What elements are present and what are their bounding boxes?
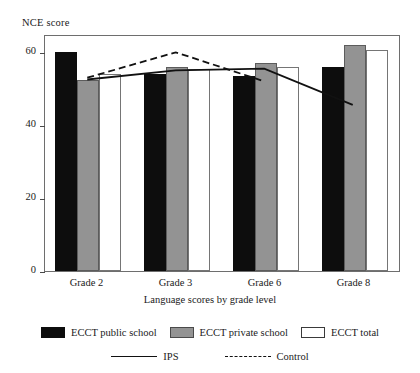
legend-item: ECCT total — [301, 327, 379, 338]
legend-label: IPS — [163, 351, 178, 362]
y-axis-label: NCE score — [22, 17, 70, 28]
bar — [255, 63, 277, 271]
legend-item: ECCT private school — [170, 327, 288, 338]
x-label-grade-3: Grade 3 — [159, 277, 193, 288]
x-axis-title: Language scores by grade level — [0, 294, 420, 305]
legend-swatch-black — [41, 327, 65, 338]
legend-item: Control — [225, 351, 309, 362]
legend-item: ECCT public school — [41, 327, 157, 338]
bar — [188, 69, 210, 271]
bar — [144, 74, 166, 271]
legend-label: ECCT total — [331, 327, 379, 338]
bar — [277, 67, 299, 271]
plot-area: 0204060 — [44, 35, 400, 272]
y-tick-mark — [40, 272, 45, 273]
bar — [322, 67, 344, 271]
bar — [233, 76, 255, 271]
bar — [366, 50, 388, 271]
x-label-grade-8: Grade 8 — [337, 277, 371, 288]
bars-layer — [45, 36, 399, 271]
x-label-grade-2: Grade 2 — [70, 277, 104, 288]
legend-item: IPS — [111, 351, 178, 362]
bar — [166, 67, 188, 271]
legend-swatch-gray — [170, 327, 194, 338]
bar — [344, 45, 366, 271]
bar — [99, 74, 121, 271]
bar — [55, 52, 77, 271]
y-tick-label: 0 — [31, 265, 36, 276]
y-tick-label: 20 — [26, 192, 37, 203]
legend-line-swatch-solid — [111, 356, 157, 357]
legend-label: Control — [277, 351, 309, 362]
legend-label: ECCT public school — [71, 327, 157, 338]
y-tick-label: 40 — [26, 119, 37, 130]
legend-line-series: IPSControl — [0, 351, 420, 362]
x-label-grade-6: Grade 6 — [248, 277, 282, 288]
nce-score-bar-chart: NCE score 0204060 Grade 2Grade 3Grade 6G… — [0, 0, 420, 373]
y-tick-label: 60 — [26, 46, 37, 57]
legend-line-swatch-dashed — [225, 356, 271, 357]
legend-bar-series: ECCT public schoolECCT private schoolECC… — [0, 327, 420, 338]
legend-swatch-white — [301, 327, 325, 338]
legend-label: ECCT private school — [200, 327, 288, 338]
bar — [77, 80, 99, 271]
